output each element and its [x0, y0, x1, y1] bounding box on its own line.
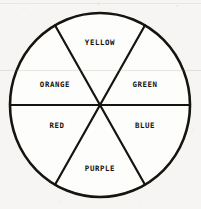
- sector-label-purple: PURPLE: [85, 165, 115, 172]
- color-wheel-svg: [0, 0, 201, 209]
- sector-label-blue: BLUE: [135, 122, 155, 129]
- sector-label-yellow: YELLOW: [85, 39, 115, 46]
- sector-label-green: GREEN: [132, 81, 157, 88]
- color-wheel-diagram: YELLOW GREEN BLUE PURPLE RED ORANGE: [0, 0, 201, 209]
- sector-label-red: RED: [49, 122, 64, 129]
- sector-label-orange: ORANGE: [40, 81, 70, 88]
